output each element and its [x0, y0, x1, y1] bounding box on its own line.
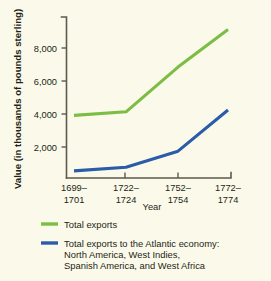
legend-label-total-exports: Total exports	[64, 219, 117, 230]
y-tick-label-8000: 8,000	[34, 44, 57, 54]
legend-label-atlantic-economy-line2: North America, West Indies,	[64, 249, 180, 260]
svg-text:1722–: 1722–	[113, 183, 140, 193]
svg-text:1699–: 1699–	[61, 183, 88, 193]
y-tick-label-6000: 6,000	[34, 77, 57, 87]
y-axis-title: Value (in thousands of pounds sterling)	[12, 9, 23, 189]
line-chart: 8,000 6,000 4,000 2,000 Value (in thousa…	[0, 0, 271, 281]
y-tick-label-2000: 2,000	[34, 143, 57, 153]
x-axis-title: Year	[143, 202, 162, 212]
legend-label-atlantic-economy-line3: Spanish America, and West Africa	[64, 260, 206, 271]
svg-text:1701: 1701	[64, 195, 85, 205]
svg-text:1772–: 1772–	[215, 183, 242, 193]
svg-text:1754: 1754	[168, 195, 189, 205]
svg-text:1724: 1724	[116, 195, 137, 205]
svg-text:1774: 1774	[218, 195, 239, 205]
legend-label-atlantic-economy-line1: Total exports to the Atlantic economy:	[64, 238, 219, 249]
chart-figure: 8,000 6,000 4,000 2,000 Value (in thousa…	[0, 0, 271, 281]
svg-text:1752–: 1752–	[165, 183, 192, 193]
y-tick-label-4000: 4,000	[34, 110, 57, 120]
